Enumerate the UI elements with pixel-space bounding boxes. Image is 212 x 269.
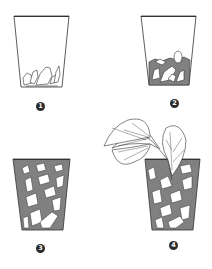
cup-panel-3 bbox=[13, 159, 70, 230]
step-badge-4: 4 bbox=[169, 241, 178, 250]
illustration-canvas bbox=[0, 0, 212, 269]
plant-leaves bbox=[104, 119, 186, 180]
step-badge-2: 2 bbox=[170, 99, 179, 108]
cup-panel-2 bbox=[141, 16, 196, 85]
step-badge-1: 1 bbox=[36, 102, 45, 111]
step-badge-3: 3 bbox=[36, 244, 45, 253]
cup-panel-4 bbox=[104, 119, 200, 230]
cup-panel-1 bbox=[14, 16, 69, 87]
